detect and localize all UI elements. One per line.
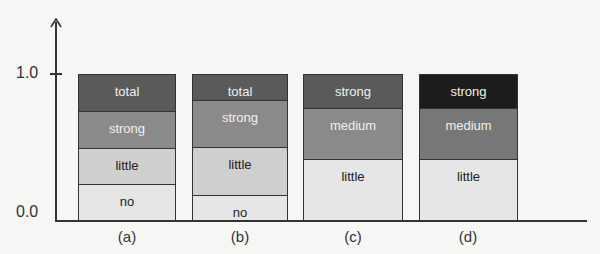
stacked-bar-chart: 1.0 0.0 totalstronglittleno totalstrongl… <box>0 0 600 254</box>
segment-total: total <box>79 75 175 111</box>
segment-medium: medium <box>420 108 517 159</box>
bar-label-d: (d) <box>418 228 518 245</box>
segment-strong: strong <box>420 75 517 108</box>
segment-little: little <box>193 147 287 195</box>
bar-label-b: (b) <box>190 228 290 245</box>
y-axis-arrow-icon <box>50 18 62 28</box>
segment-little: little <box>304 159 402 220</box>
y-axis <box>55 22 57 222</box>
y-tick-label-min: 0.0 <box>16 203 38 221</box>
bar-label-a: (a) <box>77 228 177 245</box>
y-tick-label-max: 1.0 <box>16 64 38 82</box>
segment-little: little <box>79 148 175 184</box>
bar-label-c: (c) <box>303 228 403 245</box>
bar-b: totalstronglittleno <box>192 74 288 221</box>
segment-total: total <box>193 75 287 100</box>
segment-no: no <box>193 195 287 220</box>
bar-d: strongmediumlittle <box>419 74 518 221</box>
segment-no: no <box>79 184 175 220</box>
y-tick-1 <box>50 73 62 75</box>
bar-c: strongmediumlittle <box>303 74 403 221</box>
segment-little: little <box>420 159 517 220</box>
segment-strong: strong <box>304 75 402 108</box>
segment-medium: medium <box>304 108 402 159</box>
segment-strong: strong <box>193 100 287 148</box>
bar-a: totalstronglittleno <box>78 74 176 221</box>
segment-strong: strong <box>79 111 175 147</box>
